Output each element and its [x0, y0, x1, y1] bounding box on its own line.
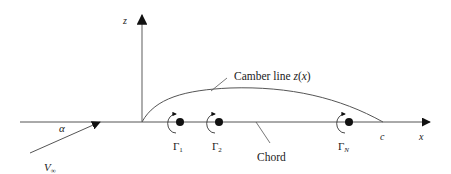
z-axis-label: z	[122, 15, 127, 26]
camber-label-main: Camber line	[234, 70, 293, 82]
freestream-velocity-arrow	[30, 122, 100, 153]
gamma-subscript: 1	[179, 146, 183, 154]
gamma-subscript: 2	[218, 146, 222, 154]
chord-label: Chord	[257, 151, 286, 163]
vortex-point-icon	[176, 118, 184, 126]
circulation-arrow-icon	[207, 114, 215, 133]
vortex-point-icon	[345, 118, 353, 126]
chord-leader-line	[256, 122, 270, 143]
thin-airfoil-diagram: z x Camber line z(x) Chord c α V∞ Γ1 Γ2 …	[0, 0, 451, 174]
vortex-1	[168, 114, 184, 133]
angle-of-attack-label: α	[59, 122, 65, 134]
vortex-point-icon	[215, 118, 223, 126]
vortex-1-label: Γ1	[173, 140, 183, 154]
camber-line-curve	[142, 88, 383, 122]
vortex-n	[337, 114, 353, 133]
velocity-subscript: ∞	[51, 167, 56, 174]
chord-end-label: c	[380, 131, 385, 142]
freestream-velocity-label: V∞	[44, 161, 56, 174]
camber-line-label: Camber line z(x)	[234, 70, 311, 83]
vortex-2-label: Γ2	[212, 140, 222, 154]
x-axis-label: x	[418, 131, 424, 142]
vortex-2	[207, 114, 223, 133]
camber-label-paren-close: )	[307, 70, 311, 83]
circulation-arrow-icon	[168, 114, 176, 133]
circulation-arrow-icon	[337, 114, 345, 133]
gamma-subscript: N	[343, 146, 349, 154]
vortex-n-label: ΓN	[338, 140, 349, 154]
